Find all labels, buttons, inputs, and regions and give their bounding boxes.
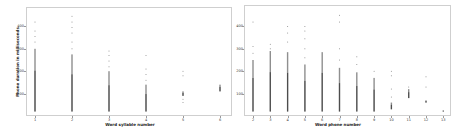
scatter-points: [0, 0, 465, 130]
